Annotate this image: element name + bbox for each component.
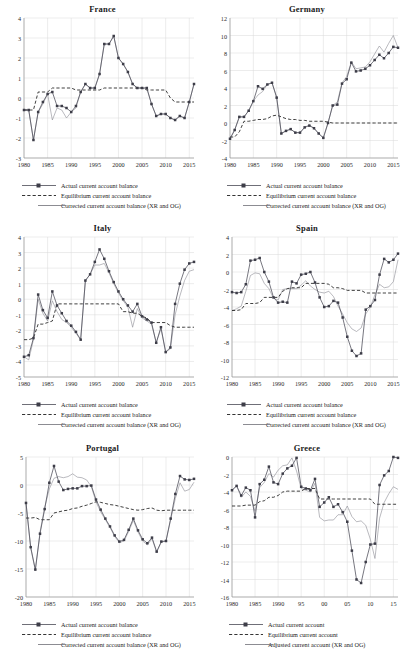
x-tick-label: 1990 [66,600,78,607]
legend-item: Equilibrium current account balance [22,631,205,638]
x-tick-label: 1985 [43,600,55,607]
y-tick-label: 12 [208,15,227,22]
y-tick-label: -4 [210,304,229,311]
legend-label: Corrected current account balance (XR an… [61,421,181,428]
x-tick-label: 2015 [387,380,399,387]
legend-label: Equilibrium current account balance [61,631,151,638]
y-tick-label: -1 [2,311,21,318]
chart-title: Spain [205,223,409,233]
y-tick-label: 4 [2,234,21,241]
x-tick-label: 1990 [270,161,282,168]
x-tick-label: 2010 [364,380,376,387]
legend-key-actual [22,401,56,408]
legend-item: Actual current account balance [22,401,205,408]
y-tick-label: 5 [4,454,23,461]
x-tick-label: 2005 [136,380,148,387]
plot-area: 50-5-10-15-20198019851990199520002005201… [26,457,194,597]
x-tick-label: 1995 [89,161,101,168]
x-tick-label: 2005 [341,380,353,387]
legend-key-corrected [239,641,263,648]
x-tick-label: 2015 [387,161,399,168]
charts-grid: France 43210-1-2-31980198519901995200020… [0,0,409,657]
legend-item: Actual current account balance [227,401,409,408]
y-tick-label: 0 [2,296,21,303]
y-tick-label: -5 [4,510,23,517]
legend-key-equilibrium [22,192,56,199]
chart-legend: Actual current account balanceEquilibriu… [227,401,409,431]
x-tick-label: 1990 [272,380,284,387]
legend-label: Actual current account balance [61,621,138,628]
legend-label: Actual current account balance [61,182,138,189]
chart-legend: Actual current account balanceEquilibriu… [227,182,409,212]
y-tick-label: -2 [2,135,21,142]
chart-panel-greece: Greece 0-2-4-6-8-10-12-14-16198019851990… [205,439,409,657]
legend-item: Equilibrium current account balance [22,192,205,199]
chart-panel-italy: Italy 43210-1-2-3-4-51980198519901995200… [0,219,205,439]
x-tick-label: 2005 [136,600,148,607]
x-tick-label: 00 [321,600,327,607]
chart-legend: Actual current accountEquilibrium curren… [229,621,409,651]
legend-label: Equilibrium current account balance [61,192,151,199]
legend-item: Actual current account balance [22,182,205,189]
x-tick-label: 2000 [113,600,125,607]
x-tick-label: 15 [390,600,396,607]
x-tick-label: 2015 [183,380,195,387]
y-tick-label: 2 [208,102,227,109]
x-tick-label: 2010 [160,600,172,607]
legend-item: Equilibrium current account balance [22,411,205,418]
legend-label: Actual current account balance [61,401,138,408]
legend-label: Equilibrium current account [268,631,338,638]
legend-key-corrected [237,202,261,209]
x-tick-label: 2005 [340,161,352,168]
y-tick-label: -10 [210,541,229,548]
y-tick-label: -15 [4,566,23,573]
y-tick-label: 2 [210,251,229,258]
y-tick-label: -10 [210,356,229,363]
x-tick-label: 1990 [272,600,284,607]
x-tick-label: 1985 [41,380,53,387]
plot-area: 43210-1-2-319801985199019952000200520102… [24,18,194,158]
y-tick-label: -3 [2,342,21,349]
chart-title: France [0,4,205,14]
x-tick-label: 2015 [183,600,195,607]
x-tick-label: 1990 [65,161,77,168]
y-tick-label: 2 [2,265,21,272]
plot-area: 0-2-4-6-8-10-12-14-161980198519909500051… [232,457,398,597]
x-tick-label: 1980 [226,600,238,607]
y-tick-label: 3 [2,249,21,256]
x-tick-label: 2015 [183,161,195,168]
x-tick-label: 1995 [90,600,102,607]
chart-legend: Actual current account balanceEquilibriu… [22,621,205,651]
legend-item: Corrected current account balance (XR an… [22,202,205,209]
x-tick-label: 2000 [318,380,330,387]
x-tick-label: 1985 [249,600,261,607]
legend-label: Equilibrium current account balance [266,192,356,199]
legend-key-equilibrium [229,631,263,638]
y-tick-label: 3 [2,35,21,42]
legend-label: Corrected current account balance (XR an… [61,641,181,648]
y-tick-label: 1 [2,75,21,82]
x-tick-label: 1980 [18,161,30,168]
y-tick-label: -6 [210,506,229,513]
legend-key-equilibrium [227,411,261,418]
y-tick-label: 0 [210,454,229,461]
y-tick-label: 10 [208,32,227,39]
legend-key-actual [229,621,263,628]
y-tick-label: -2 [210,286,229,293]
legend-key-corrected [237,421,261,428]
y-tick-label: -8 [210,524,229,531]
legend-label: Corrected current account balance (XR an… [266,202,386,209]
y-tick-label: -6 [210,321,229,328]
legend-item: Adjusted current account (XR and OG) [229,641,409,648]
legend-item: Equilibrium current account [229,631,409,638]
legend-label: Adjusted current account (XR and OG) [268,641,365,648]
legend-item: Equilibrium current account balance [227,411,409,418]
legend-item: Corrected current account balance (XR an… [227,202,409,209]
y-tick-label: -8 [210,339,229,346]
chart-title: Portugal [0,443,205,453]
x-tick-label: 05 [344,600,350,607]
plot-area: 121086420-2-4198019851990199520002005201… [230,18,398,158]
x-tick-label: 1985 [247,161,259,168]
x-tick-label: 2000 [317,161,329,168]
legend-key-actual [227,401,261,408]
